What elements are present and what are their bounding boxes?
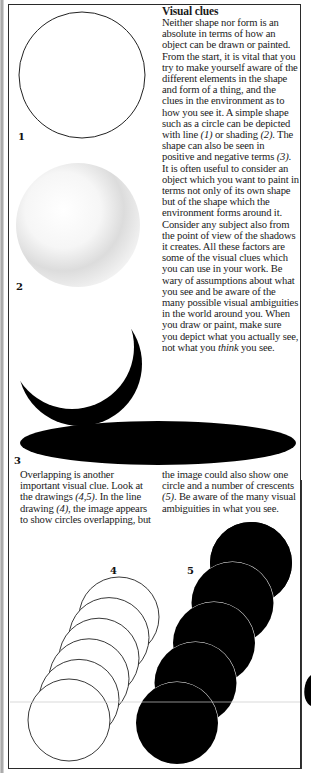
figure-ref-5: (5) [162,491,174,502]
article-title: Visual clues [162,5,299,17]
overlap-column-right: the image could also show one circle and… [162,469,299,514]
emphasis-think: think [218,342,238,353]
figure-5-label: 5 [187,566,194,576]
overlap-column-left: Overlapping is another important visual … [20,469,156,525]
intro-column: Visual clues Neither shape nor form is a… [162,5,299,353]
scan-artifact-strip [10,701,300,703]
overlap-paragraph-left: Overlapping is another important visual … [20,469,156,525]
overlap-paragraph-right: the image could also show one circle and… [162,469,299,514]
solid-circle [136,682,218,764]
intro-text-1: Neither shape nor form is an absolute in… [162,17,298,140]
figure-ref-4: (4) [56,503,68,514]
intro-paragraph: Neither shape nor form is an absolute in… [162,17,299,353]
overlap-right-text-1: the image could also show one circle and… [162,469,294,491]
figure-ref-2: (2) [260,129,272,140]
figure-4-label: 4 [110,566,117,576]
intro-text-2: or shading [212,129,260,140]
figure-ref-1: (1) [201,129,213,140]
figure-1-label: 1 [18,132,25,142]
figure-2-label: 2 [16,282,23,292]
intro-text-4: . It is often useful to consider an obje… [162,151,299,352]
figure-ref-3: (3) [277,151,289,162]
figure-ref-4-5: (4,5) [75,491,95,502]
overlap-right-text-2: . Be aware of the many visual ambiguitie… [162,491,296,513]
figure-3-label: 3 [14,456,21,466]
intro-text-5: you see. [238,342,274,353]
